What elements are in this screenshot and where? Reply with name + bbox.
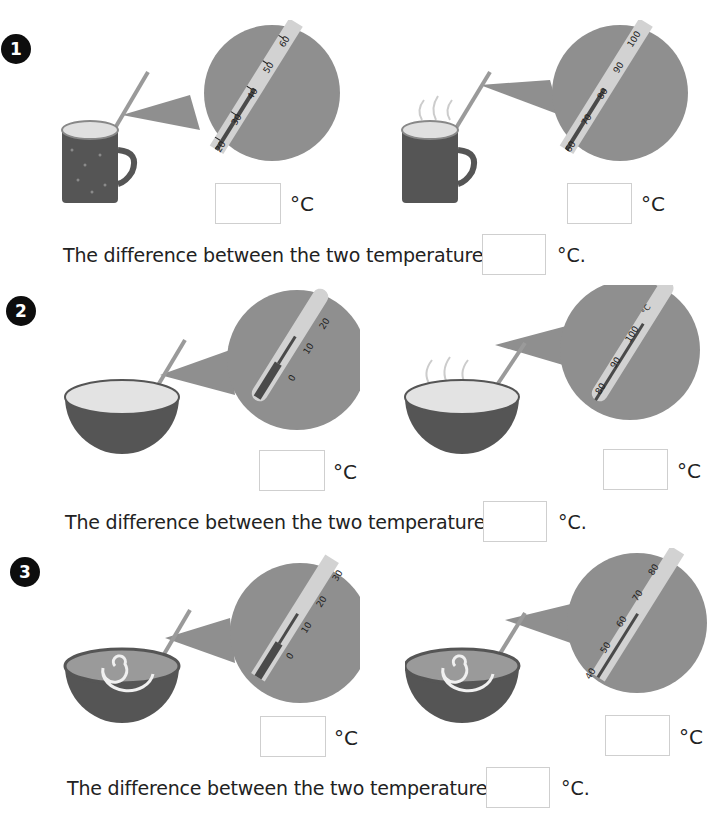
problem-number-badge: 1 [1,34,31,64]
temperature-answer-box[interactable] [259,450,325,491]
problem-number: 2 [15,301,27,321]
problem-number: 1 [10,39,22,59]
mug-thermometer-scene: 20 30 40 50 60 [50,20,340,210]
temperature-answer-box[interactable] [260,716,326,757]
difference-question: The difference between the two temperatu… [65,511,516,533]
cold-bowl-thermometer-scene: 0 10 20 [50,285,360,470]
difference-question: The difference between the two temperatu… [67,777,518,799]
unit-label: °C [290,192,314,216]
unit-label: °C [334,726,358,750]
difference-question: The difference between the two temperatu… [63,244,514,266]
unit-label: °C. [561,777,590,799]
difference-answer-box[interactable] [486,767,550,808]
hot-mug-thermometer-scene: 60 70 80 90 100 [400,20,700,210]
hot-bowl-thermometer-scene: 80 90 100 °C [400,285,710,470]
difference-answer-box[interactable] [483,501,547,542]
difference-answer-box[interactable] [482,234,546,275]
unit-label: °C [679,725,703,749]
unit-label: °C [333,460,357,484]
temperature-answer-box[interactable] [215,183,281,224]
unit-label: °C [677,459,701,483]
unit-label: °C. [558,511,587,533]
temperature-answer-box[interactable] [567,183,632,224]
warm-soup-thermometer-scene: 40 50 60 70 80 [405,548,710,733]
unit-label: °C. [557,244,586,266]
temperature-answer-box[interactable] [603,449,668,490]
problem-number-badge: 3 [10,557,40,587]
problem-number: 3 [19,562,31,582]
problem-number-badge: 2 [6,296,36,326]
temperature-answer-box[interactable] [605,715,670,756]
unit-label: °C [641,192,665,216]
cold-soup-thermometer-scene: 0 10 20 30 [55,548,360,733]
